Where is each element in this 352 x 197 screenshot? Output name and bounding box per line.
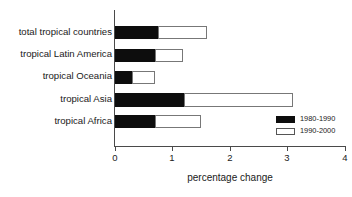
bar-segment-1990-2000 bbox=[155, 49, 183, 62]
x-tick-0 bbox=[115, 146, 116, 151]
x-tick-label-0: 0 bbox=[105, 152, 125, 163]
category-axis-labels: total tropical countries tropical Latin … bbox=[0, 0, 112, 150]
x-tick-label-2: 2 bbox=[220, 152, 240, 163]
x-tick-1 bbox=[172, 146, 173, 151]
legend-item-1980-1990: 1980-1990 bbox=[276, 114, 348, 124]
legend: 1980-1990 1990-2000 bbox=[276, 114, 348, 138]
bar-segment-1980-1990 bbox=[115, 26, 158, 39]
x-tick-4 bbox=[345, 146, 346, 151]
x-tick-2 bbox=[230, 146, 231, 151]
x-tick-label-3: 3 bbox=[277, 152, 297, 163]
bar-row bbox=[115, 93, 345, 107]
category-label-tropical-latin-america: tropical Latin America bbox=[4, 48, 112, 59]
x-axis-title: percentage change bbox=[115, 172, 345, 183]
category-label-tropical-africa: tropical Africa bbox=[4, 115, 112, 126]
bar-row bbox=[115, 71, 345, 84]
legend-label: 1990-2000 bbox=[300, 127, 335, 135]
legend-swatch-icon bbox=[276, 128, 295, 135]
bar-segment-1980-1990 bbox=[115, 93, 184, 107]
category-label-total-tropical-countries: total tropical countries bbox=[4, 26, 112, 37]
x-tick-label-4: 4 bbox=[335, 152, 352, 163]
x-tick-3 bbox=[287, 146, 288, 151]
bar-row bbox=[115, 26, 345, 39]
x-tick-label-1: 1 bbox=[162, 152, 182, 163]
category-label-tropical-asia: tropical Asia bbox=[4, 93, 112, 104]
bar-row bbox=[115, 49, 345, 62]
legend-item-1990-2000: 1990-2000 bbox=[276, 126, 348, 136]
bar-segment-1990-2000 bbox=[158, 26, 207, 39]
bar-segment-1990-2000 bbox=[184, 93, 293, 107]
bar-segment-1990-2000 bbox=[132, 71, 155, 84]
legend-label: 1980-1990 bbox=[300, 115, 335, 123]
bar-chart: total tropical countries tropical Latin … bbox=[0, 0, 352, 197]
bar-segment-1980-1990 bbox=[115, 49, 155, 62]
bar-segment-1990-2000 bbox=[155, 115, 201, 128]
legend-swatch-icon bbox=[276, 116, 295, 123]
bar-segment-1980-1990 bbox=[115, 71, 132, 84]
category-label-tropical-oceania: tropical Oceania bbox=[4, 70, 112, 81]
bar-segment-1980-1990 bbox=[115, 115, 155, 128]
